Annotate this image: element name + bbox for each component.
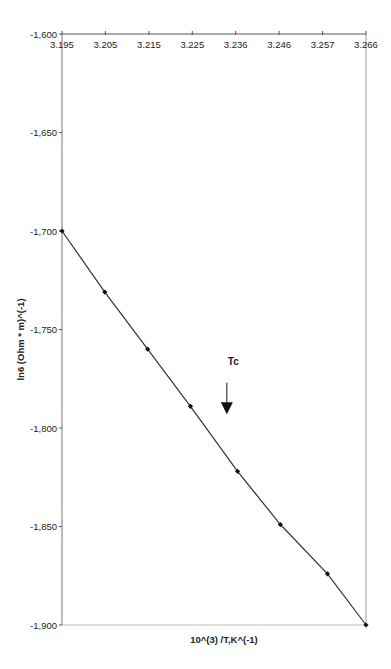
x-tick-label: 3.236 xyxy=(224,39,248,50)
tc-annotation-label: Tc xyxy=(228,356,239,367)
x-tick-label: 3.205 xyxy=(94,39,118,50)
y-tick-label: -1,900 xyxy=(30,620,57,631)
y-tick-label: -1,650 xyxy=(30,127,57,138)
x-tick-label: 3.225 xyxy=(180,39,204,50)
x-axis-title: 10^(3) /T,K^(-1) xyxy=(190,634,258,645)
x-tick-label: 3.246 xyxy=(267,39,291,50)
y-tick-label: -1,850 xyxy=(30,521,57,532)
tc-arrow-icon xyxy=(221,383,233,415)
x-tick-label: 3.195 xyxy=(50,39,74,50)
series-line xyxy=(62,231,366,625)
x-tick-label: 3.215 xyxy=(137,39,161,50)
arrow-head xyxy=(221,402,233,414)
x-tick-label: 3.257 xyxy=(311,39,335,50)
y-tick-label: -1,600 xyxy=(30,29,57,40)
y-tick-label: -1,750 xyxy=(30,324,57,335)
y-axis-ticks: -1,600-1,650-1,700-1,750-1,800-1,850-1,9… xyxy=(30,29,62,631)
y-axis-title: ln6 (Ohm * m)^(-1) xyxy=(15,298,26,380)
plot-frame xyxy=(62,34,366,625)
y-tick-label: -1,800 xyxy=(30,423,57,434)
y-tick-label: -1,700 xyxy=(30,226,57,237)
chart: 3.1953.2053.2153.2253.2363.2463.2573.266… xyxy=(0,0,391,669)
x-tick-label: 3.266 xyxy=(354,39,378,50)
series-layer xyxy=(59,228,368,627)
